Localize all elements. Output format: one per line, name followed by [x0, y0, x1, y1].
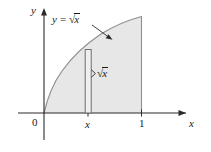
- shaded-region-under-curve: [44, 17, 142, 114]
- x-tick-label-1: 1: [139, 118, 145, 129]
- y-axis-arrowhead: [41, 8, 47, 16]
- strip-height-label: √x: [97, 67, 108, 79]
- curve-equation-radicand: x: [74, 13, 80, 25]
- curve-equation-equals: =: [57, 13, 69, 25]
- y-axis-label: y: [31, 5, 36, 16]
- representative-rectangle: [85, 50, 91, 114]
- curve-equation-radical: √x: [69, 13, 80, 25]
- origin-label: 0: [32, 117, 38, 128]
- strip-height-radical: √x: [97, 67, 108, 79]
- x-axis-label: x: [189, 118, 194, 129]
- x-tick-label-x: x: [85, 119, 90, 130]
- curve-equation-label: y=√x: [52, 13, 80, 25]
- figure-container: y x 0 x 1 y=√x √x: [0, 0, 211, 152]
- x-axis-arrowhead: [179, 110, 187, 116]
- strip-height-radicand: x: [102, 67, 108, 79]
